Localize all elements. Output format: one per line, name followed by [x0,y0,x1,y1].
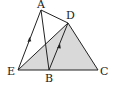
label-b: B [45,72,53,85]
label-a: A [36,0,46,11]
label-e: E [7,65,15,78]
label-d: D [66,9,75,22]
segment-ad [41,10,68,23]
geometry-diagram: A D E B C [0,0,116,85]
label-c: C [100,65,108,78]
